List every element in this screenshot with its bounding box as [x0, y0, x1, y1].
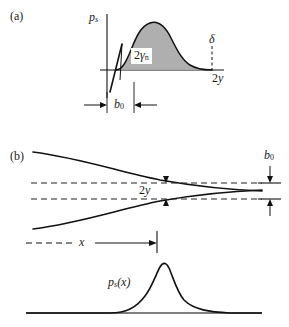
- pressure-argument: (x): [117, 275, 130, 289]
- panel-a-x-axis-variable: y: [218, 71, 223, 85]
- panel-a-y-axis-label: ps: [89, 11, 98, 24]
- panel-b-gap-label: 2y: [139, 184, 150, 196]
- panel-a-b0-right-arrowhead: [134, 102, 141, 108]
- panel-a-label: (a): [10, 10, 23, 22]
- panel-a-y-axis-subscript: s: [95, 15, 98, 24]
- panel-b-graphics: [26, 152, 281, 253]
- pressure-profile-label: ps(x): [108, 276, 130, 289]
- panel-a-graphics: [84, 14, 224, 113]
- panel-b-gap-variable: y: [145, 183, 150, 197]
- panel-a-b0-left-arrowhead: [100, 102, 107, 108]
- pressure-profile-curve: [26, 263, 262, 313]
- panel-b-b0-label: b0: [264, 149, 274, 162]
- panel-a-b0-label: b0: [114, 98, 124, 111]
- panel-b-label: (b): [10, 150, 24, 162]
- panel-b-b0-upper-arrowhead: [267, 176, 273, 183]
- panel-a-b0-subscript: 0: [120, 102, 124, 111]
- panel-a-x-axis-label: 2y: [212, 72, 223, 84]
- panel-b-x-label: x: [79, 236, 84, 248]
- pressure-profile-graphics: [26, 263, 262, 313]
- panel-a-shaded-region-label: 2γn: [131, 48, 152, 64]
- panel-b-x-arrowhead: [149, 240, 157, 246]
- gamma-subscript: n: [145, 53, 149, 62]
- figure-container: (a) ps 2y 2γn δ b0 (b) 2y b0 x ps(x): [0, 0, 289, 327]
- panel-b-b0-lower-arrowhead: [267, 199, 273, 206]
- panel-a-delta-label: δ: [209, 33, 215, 45]
- panel-b-b0-subscript: 0: [270, 153, 274, 162]
